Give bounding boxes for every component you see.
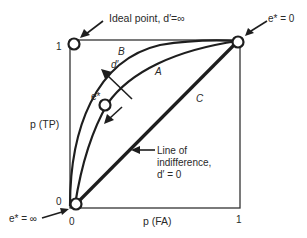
- origin-point-marker: [71, 199, 82, 210]
- roc-diagram: 1 0 0 1 p (TP) p (FA) B A C Ideal point,…: [0, 0, 307, 238]
- curve-b-label: B: [118, 46, 125, 57]
- d-prime-arrow-label: d′: [111, 59, 118, 70]
- curve-c-label: C: [196, 93, 203, 104]
- ideal-point-label: Ideal point, d′=∞: [109, 13, 185, 24]
- indifference-label-line2: indifference,: [157, 157, 211, 168]
- y-axis-label: p (TP): [30, 119, 59, 130]
- origin-arrow-head: [60, 208, 69, 215]
- y-tick-1: 1: [56, 41, 62, 52]
- x-tick-0: 0: [69, 216, 75, 227]
- operating-point-label: e*: [91, 91, 100, 102]
- curve-a-label: A: [155, 66, 162, 77]
- indifference-label-line1: Line of: [157, 145, 187, 156]
- x-axis-label: p (FA): [143, 216, 172, 227]
- ideal-arrow-head: [80, 29, 90, 38]
- operating-point-marker: [100, 100, 111, 111]
- x-tick-1: 1: [236, 214, 242, 225]
- ideal-point-marker: [69, 39, 80, 50]
- indifference-label-line3: d′ = 0: [157, 169, 181, 180]
- top-right-point-label: e* = 0: [268, 13, 294, 24]
- origin-point-label: e* = ∞: [9, 213, 37, 224]
- y-tick-0: 0: [56, 196, 62, 207]
- top-right-point-marker: [233, 37, 244, 48]
